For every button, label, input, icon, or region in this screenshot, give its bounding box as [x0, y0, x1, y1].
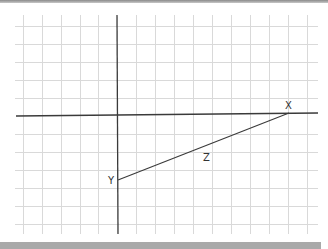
grid-lines	[15, 15, 318, 234]
segment-z-label: Z	[203, 153, 210, 163]
y-axis	[117, 15, 118, 234]
bottom-border	[0, 242, 321, 249]
coordinate-grid	[0, 0, 328, 249]
segment-z	[118, 113, 289, 180]
point-x-label: X	[285, 101, 292, 111]
point-y-label: Y	[108, 176, 114, 186]
